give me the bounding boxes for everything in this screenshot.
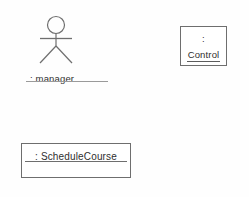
actor-label-wrapper: : manager xyxy=(28,68,124,86)
control-box-content: : Control xyxy=(181,34,226,62)
schedulecourse-compartment-divider xyxy=(25,161,127,162)
actor-manager[interactable]: : manager xyxy=(20,12,130,87)
control-class-name-label: Control xyxy=(187,49,221,62)
diagram-canvas: : manager : Control : ScheduleCourse xyxy=(0,0,249,197)
schedulecourse-name-compartment: : ScheduleCourse xyxy=(22,146,130,162)
object-box-control[interactable]: : Control xyxy=(180,26,227,66)
actor-label-underline xyxy=(26,81,108,82)
actor-manager-label: : manager xyxy=(28,73,76,85)
object-box-schedulecourse[interactable]: : ScheduleCourse xyxy=(21,143,131,178)
schedulecourse-attributes-compartment xyxy=(22,163,130,177)
control-colon-separator: : xyxy=(181,34,226,44)
